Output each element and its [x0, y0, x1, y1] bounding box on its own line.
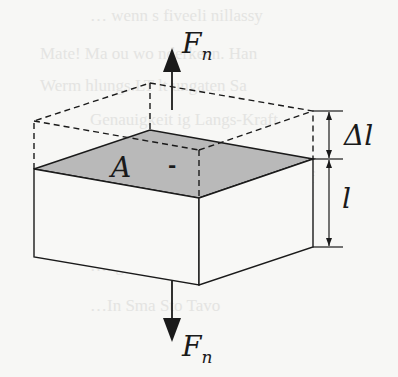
force-arrow-down-icon [163, 281, 181, 342]
dimension-lines [313, 111, 343, 247]
elongation-label: Δl [344, 122, 373, 150]
diagram-canvas: … wenn s fiveeli nillassy Mate! Ma ou wo… [0, 0, 398, 377]
force-top-label: Fn [182, 30, 212, 58]
area-label: A [111, 154, 131, 182]
area-mark: - [168, 155, 176, 175]
length-label: l [342, 185, 351, 213]
force-bottom-label: Fn [182, 333, 212, 361]
force-arrow-up-icon [163, 48, 181, 110]
